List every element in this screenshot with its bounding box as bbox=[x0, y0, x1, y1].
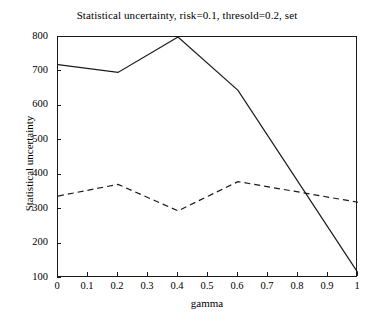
x-axis-tick-mark bbox=[297, 272, 298, 276]
x-axis-tick-mark bbox=[147, 272, 148, 276]
plot-lines bbox=[58, 37, 358, 278]
x-axis-tick-mark bbox=[357, 272, 358, 276]
x-axis-tick-mark bbox=[237, 272, 238, 276]
chart-figure: Statistical uncertainty, risk=0.1, thres… bbox=[0, 0, 374, 324]
x-axis-tick-mark bbox=[327, 272, 328, 276]
x-axis-tick-mark bbox=[117, 272, 118, 276]
x-axis-tick-mark bbox=[87, 272, 88, 276]
line-series-dashed bbox=[58, 182, 358, 211]
y-axis-label: Statistical uncertainty bbox=[23, 74, 36, 254]
x-axis-tick-mark bbox=[57, 272, 58, 276]
x-axis-tick-mark bbox=[177, 272, 178, 276]
plot-area bbox=[57, 36, 357, 277]
x-axis-label: gamma bbox=[57, 297, 357, 310]
x-axis-tick-mark bbox=[267, 272, 268, 276]
x-axis-tick-label: 1 bbox=[337, 281, 374, 292]
y-axis-tick-label: 800 bbox=[0, 31, 48, 42]
x-axis-tick-mark bbox=[207, 272, 208, 276]
chart-title: Statistical uncertainty, risk=0.1, thres… bbox=[0, 8, 374, 22]
line-series-solid bbox=[58, 37, 358, 273]
